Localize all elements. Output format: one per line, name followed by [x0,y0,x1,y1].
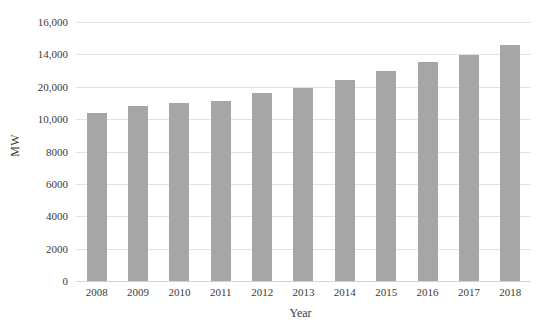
x-axis-tick-label: 2017 [448,285,489,299]
y-axis-tick-label: 6000 [46,178,68,189]
bar[interactable] [252,93,272,281]
bar-slot [448,22,489,281]
bar[interactable] [128,106,148,281]
x-axis-tick-label: 2018 [490,285,531,299]
bar[interactable] [459,55,479,281]
x-axis-tick-label: 2008 [76,285,117,299]
bar-slot [490,22,531,281]
x-axis-tick-label: 2010 [159,285,200,299]
plot-area [76,22,531,281]
bar-slot [159,22,200,281]
y-axis-tick-labels: 0200040006000800010,00020,00014,00016,00… [0,0,76,332]
bar-series [76,22,531,281]
bar[interactable] [418,62,438,281]
bar-slot [283,22,324,281]
x-axis-tick-label: 2016 [407,285,448,299]
bar-slot [407,22,448,281]
bar[interactable] [500,45,520,281]
y-axis-tick-label: 16,000 [38,17,68,28]
bar-slot [324,22,365,281]
x-axis-tick-label: 2009 [117,285,158,299]
x-axis-tick-label: 2014 [324,285,365,299]
y-axis-tick-label: 4000 [46,211,68,222]
y-axis-tick-label: 14,000 [38,49,68,60]
bar-slot [241,22,282,281]
bar[interactable] [169,103,189,281]
bar-chart: MW 0200040006000800010,00020,00014,00016… [0,0,539,332]
y-axis-tick-label: 2000 [46,243,68,254]
y-axis-tick-label: 20,000 [38,81,68,92]
x-axis-tick-label: 2015 [366,285,407,299]
bar-slot [200,22,241,281]
y-axis-tick-label: 10,000 [38,114,68,125]
x-axis-tick-labels: 2008200920102011201220132014201520162017… [76,285,531,305]
bar[interactable] [376,71,396,281]
bar-slot [366,22,407,281]
bar-slot [76,22,117,281]
x-axis-title: Year [70,306,531,321]
y-axis-tick-label: 0 [63,276,69,287]
x-axis-tick-label: 2012 [241,285,282,299]
y-axis-tick-label: 8000 [46,146,68,157]
bar[interactable] [211,101,231,281]
bar-slot [117,22,158,281]
x-axis-tick-label: 2013 [283,285,324,299]
gridline [76,281,531,282]
bar[interactable] [293,88,313,281]
x-axis-tick-label: 2011 [200,285,241,299]
bar[interactable] [335,80,355,281]
bar[interactable] [87,113,107,281]
